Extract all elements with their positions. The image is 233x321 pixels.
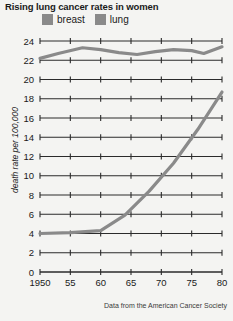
y-tick-label: 8: [29, 190, 34, 201]
x-tick-label: 55: [65, 277, 76, 288]
x-tick-label: 70: [156, 277, 167, 288]
y-tick-label: 18: [23, 93, 34, 104]
x-tick-label: 80: [217, 277, 228, 288]
y-tick-label: 4: [29, 228, 34, 239]
y-tick-label: 14: [23, 132, 34, 143]
y-tick-label: 24: [23, 36, 34, 47]
y-tick-label: 20: [23, 74, 34, 85]
x-tick-label: 60: [95, 277, 106, 288]
y-tick-label: 22: [23, 55, 34, 66]
x-tick-labels-group: 1950556065707580: [29, 277, 227, 288]
chart-figure: Rising lung cancer rates in women breast…: [0, 0, 233, 321]
series-line-breast: [40, 47, 222, 59]
y-tick-label: 10: [23, 170, 34, 181]
y-tick-label: 16: [23, 113, 34, 124]
y-tick-label: 2: [29, 247, 34, 258]
plot-area: 024681012141618202224 1950556065707580: [0, 0, 233, 321]
y-tick-label: 6: [29, 209, 34, 220]
y-tick-label: 0: [29, 267, 34, 278]
y-tick-label: 12: [23, 151, 34, 162]
y-axis-label: death rate per 100,000: [10, 95, 20, 205]
x-tick-label: 75: [186, 277, 197, 288]
x-tick-label: 65: [126, 277, 137, 288]
y-tick-labels-group: 024681012141618202224: [23, 36, 34, 278]
source-note: Data from the American Cancer Society: [104, 302, 227, 309]
x-tick-label: 1950: [29, 277, 50, 288]
